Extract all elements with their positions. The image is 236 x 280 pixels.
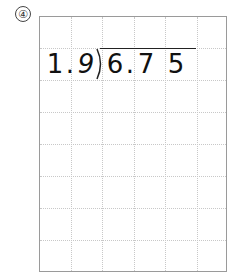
divisor-digit: 9	[76, 48, 96, 80]
grid-line	[40, 144, 226, 145]
problem-number-badge: ④	[15, 6, 31, 22]
grid-line	[40, 112, 226, 113]
dividend-digit: 7	[136, 48, 156, 80]
division-bracket-icon	[95, 48, 105, 80]
grid-line	[40, 80, 226, 81]
grid-line	[40, 208, 226, 209]
grid-line	[40, 176, 226, 177]
dividend-digit: 5	[166, 48, 186, 80]
grid-line	[40, 240, 226, 241]
division-bar	[100, 48, 196, 49]
division-problem: 1 . 9 6 . 7 5	[39, 48, 227, 80]
